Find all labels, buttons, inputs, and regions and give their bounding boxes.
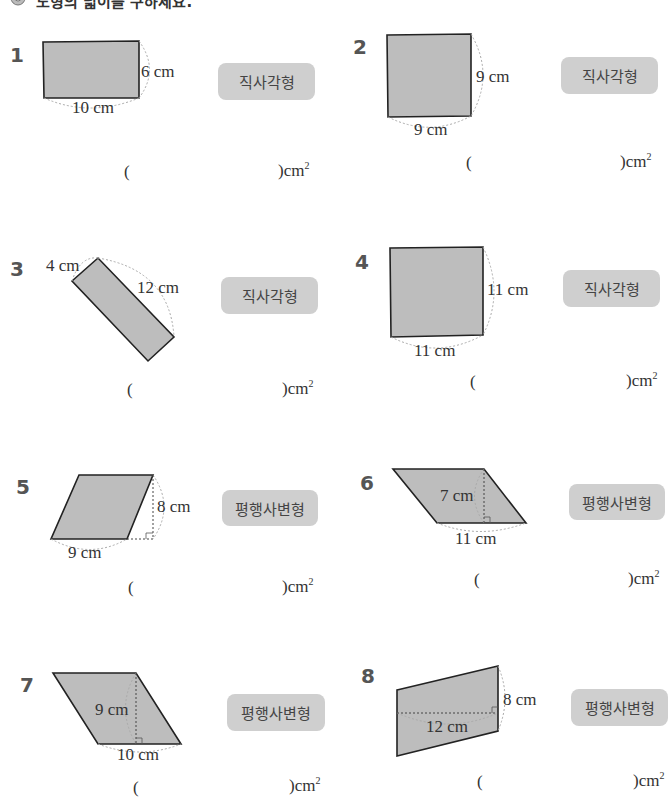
- answer-unit: )cm2: [626, 370, 657, 391]
- shape-type-badge: 평행사변형: [222, 490, 318, 526]
- answer-open-paren: (: [470, 372, 476, 392]
- rectangle-shape-1: [43, 41, 139, 98]
- rectangle-shape-3: [72, 258, 174, 361]
- dimension-label-height: 8 cm: [157, 497, 191, 517]
- problem-number-5: 5: [16, 475, 30, 499]
- dimension-label-height: 7 cm: [440, 486, 474, 506]
- shape-type-badge: 직사각형: [221, 277, 318, 314]
- dimension-label-length: 12 cm: [137, 278, 179, 298]
- answer-unit: )cm2: [620, 151, 651, 172]
- problem-number-4: 4: [355, 250, 369, 274]
- shape-type-badge: 평행사변형: [571, 689, 668, 726]
- parallelogram-shape-8: [397, 666, 498, 756]
- square-shape-2: [387, 34, 471, 117]
- answer-open-paren: (: [127, 380, 133, 400]
- answer-open-paren: (: [477, 772, 483, 792]
- problem-number-2: 2: [353, 35, 367, 59]
- dimension-label-width: 4 cm: [46, 256, 80, 276]
- answer-unit: )cm2: [278, 160, 309, 181]
- parallelogram-shape-5: [51, 475, 153, 539]
- dimension-label-height: 9 cm: [476, 67, 510, 87]
- dimension-label-height: 6 cm: [141, 62, 175, 82]
- answer-open-paren: (: [124, 162, 130, 182]
- dimension-label-height: 8 cm: [503, 690, 537, 710]
- dimension-label-base: 9 cm: [68, 543, 102, 563]
- square-shape-4: [390, 247, 483, 337]
- dimension-label-width: 10 cm: [72, 98, 114, 118]
- answer-open-paren: (: [474, 570, 480, 590]
- answer-unit: )cm2: [628, 568, 659, 589]
- shape-type-badge: 직사각형: [561, 57, 658, 94]
- problem-number-6: 6: [360, 471, 374, 495]
- problem-number-7: 7: [20, 673, 34, 697]
- dimension-label-base: 12 cm: [426, 717, 468, 737]
- dimension-label-height: 11 cm: [487, 280, 528, 300]
- answer-open-paren: (: [133, 778, 139, 798]
- shape-type-badge: 평행사변형: [227, 694, 325, 731]
- answer-open-paren: (: [466, 153, 472, 173]
- answer-open-paren: (: [128, 578, 134, 598]
- answer-unit: )cm2: [282, 378, 313, 399]
- answer-unit: )cm2: [282, 576, 313, 597]
- shape-type-badge: 직사각형: [563, 270, 660, 307]
- shape-type-badge: 평행사변형: [569, 484, 665, 520]
- shape-type-badge: 직사각형: [218, 63, 315, 100]
- dimension-label-base: 10 cm: [117, 745, 159, 765]
- answer-unit: )cm2: [633, 770, 664, 791]
- dimension-label-width: 11 cm: [414, 341, 455, 361]
- dimension-label-height: 9 cm: [95, 700, 129, 720]
- dimension-label-width: 9 cm: [414, 120, 448, 140]
- problem-number-3: 3: [10, 257, 24, 281]
- problem-number-1: 1: [10, 43, 24, 67]
- problem-number-8: 8: [361, 664, 375, 688]
- dimension-label-base: 11 cm: [455, 529, 496, 549]
- answer-unit: )cm2: [289, 775, 320, 796]
